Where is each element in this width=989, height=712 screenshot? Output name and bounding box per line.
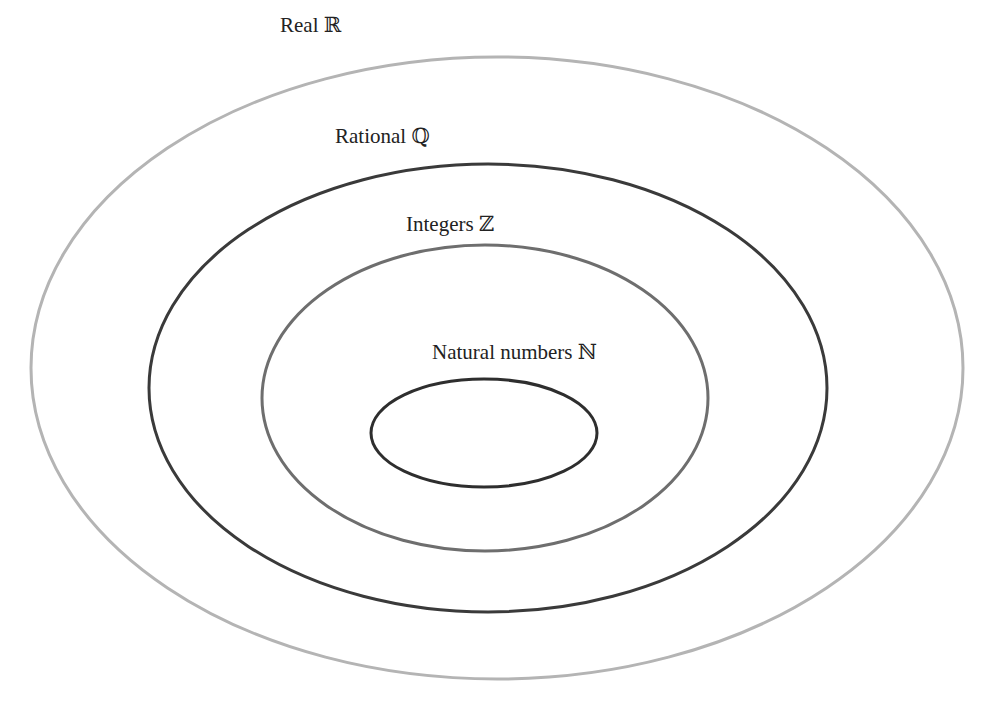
real-set-label: Real ℝ — [280, 13, 342, 37]
real-set-ellipse — [31, 57, 963, 679]
number-sets-diagram: Real ℝ Rational ℚ Integers ℤ Natural num… — [0, 0, 989, 712]
integers-set-label: Integers ℤ — [406, 212, 494, 236]
natural-set-label: Natural numbers ℕ — [432, 340, 597, 364]
integers-set-ellipse — [262, 245, 708, 551]
natural-set-ellipse — [371, 379, 597, 487]
rational-set-label: Rational ℚ — [335, 124, 430, 148]
